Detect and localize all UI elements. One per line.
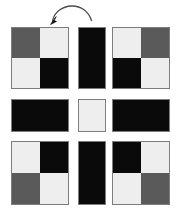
tile-r3c1-cell-4-white	[40, 173, 68, 204]
tile-r1c1-cell-3-white	[12, 58, 40, 88]
tile-r1c1-cell-1-gray	[12, 28, 40, 58]
tile-r3c2	[78, 141, 106, 205]
tile-grid	[0, 0, 180, 217]
tile-r3c1-cell-3-gray	[12, 173, 40, 204]
tile-r2c3	[112, 99, 170, 132]
tile-r3c1	[11, 141, 69, 205]
tile-r1c2-cell-1-black	[79, 28, 105, 88]
tile-r1c1-cell-4-black	[40, 58, 68, 88]
tile-r3c3-cell-2-white	[141, 142, 169, 173]
figure-canvas	[0, 0, 180, 217]
tile-r2c2	[78, 99, 106, 132]
tile-r3c3-cell-4-gray	[141, 173, 169, 204]
tile-r3c3	[112, 141, 170, 205]
tile-r1c3	[112, 27, 170, 89]
tile-r1c3-cell-4-white	[141, 58, 169, 88]
tile-r2c2-cell-1-white	[79, 100, 105, 131]
tile-r3c3-cell-1-black	[113, 142, 141, 173]
tile-r1c3-cell-3-black	[113, 58, 141, 88]
tile-r1c1	[11, 27, 69, 89]
tile-r3c3-cell-3-white	[113, 173, 141, 204]
tile-r2c1	[11, 99, 69, 132]
tile-r2c1-cell-1-black	[12, 100, 68, 131]
tile-r2c3-cell-1-black	[113, 100, 169, 131]
tile-r3c2-cell-1-black	[79, 142, 105, 204]
tile-r1c1-cell-2-white	[40, 28, 68, 58]
tile-r1c3-cell-1-white	[113, 28, 141, 58]
tile-r1c3-cell-2-gray	[141, 28, 169, 58]
tile-r1c2	[78, 27, 106, 89]
tile-r3c1-cell-2-black	[40, 142, 68, 173]
tile-r3c1-cell-1-white	[12, 142, 40, 173]
